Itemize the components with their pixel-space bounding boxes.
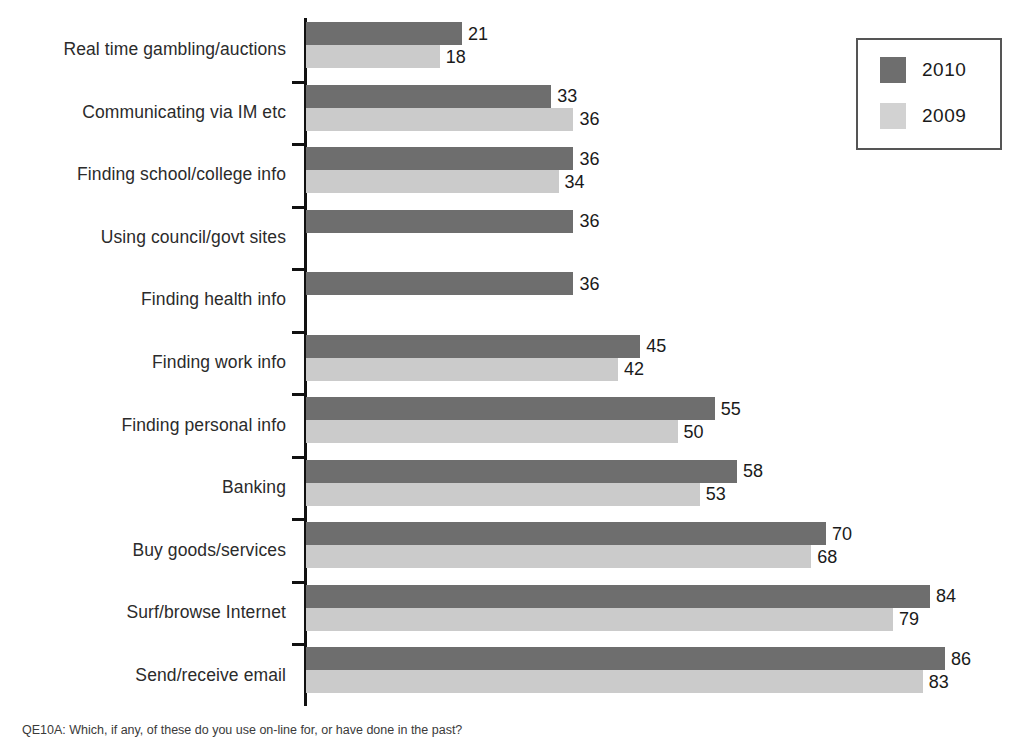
legend-swatch-2009: [880, 103, 906, 129]
chart-row: Finding work info4542: [0, 331, 1021, 394]
bar-value-label: 33: [551, 86, 577, 107]
category-label: Finding work info: [152, 351, 286, 372]
bar-fill: [306, 585, 930, 608]
bar-2010: 58: [306, 460, 737, 483]
bar-2009: 36: [306, 108, 573, 131]
bar-fill: [306, 272, 573, 295]
category-label: Finding health info: [141, 289, 286, 310]
bar-2010: 70: [306, 522, 826, 545]
bar-value-label: 83: [923, 671, 949, 692]
bar-2010: 86: [306, 647, 945, 670]
bar-value-label: 58: [737, 461, 763, 482]
category-label: Finding personal info: [121, 414, 286, 435]
bar-value-label: 53: [700, 484, 726, 505]
bar-2009: 53: [306, 483, 700, 506]
bar-chart: Real time gambling/auctions2118Communica…: [0, 0, 1021, 738]
chart-caption: QE10A: Which, if any, of these do you us…: [22, 723, 982, 738]
bar-fill: [306, 335, 640, 358]
bar-2010: 36: [306, 272, 573, 295]
bar-value-label: 68: [811, 546, 837, 567]
bar-value-label: 70: [826, 523, 852, 544]
category-label: Banking: [222, 477, 286, 498]
bar-value-label: 21: [462, 23, 488, 44]
bar-fill: [306, 670, 923, 693]
category-label: Finding school/college info: [77, 164, 286, 185]
legend-item-2009: 2009: [880, 102, 966, 130]
chart-row: Banking5853: [0, 456, 1021, 519]
bar-fill: [306, 397, 715, 420]
bar-fill: [306, 608, 893, 631]
category-label: Using council/govt sites: [101, 226, 286, 247]
bar-value-label: 18: [440, 46, 466, 67]
bar-fill: [306, 147, 573, 170]
bar-value-label: 86: [945, 648, 971, 669]
legend-item-2010: 2010: [880, 56, 966, 84]
category-label: Real time gambling/auctions: [63, 39, 286, 60]
bar-fill: [306, 647, 945, 670]
bar-value-label: 45: [640, 336, 666, 357]
bar-2010: 21: [306, 22, 462, 45]
bar-value-label: 36: [573, 211, 599, 232]
bar-fill: [306, 210, 573, 233]
bar-2010: 84: [306, 585, 930, 608]
chart-row: Send/receive email8683: [0, 643, 1021, 706]
bar-value-label: 42: [618, 359, 644, 380]
bar-2009: 50: [306, 420, 678, 443]
chart-row: Surf/browse Internet8479: [0, 581, 1021, 644]
bar-value-label: 84: [930, 586, 956, 607]
bar-fill: [306, 170, 559, 193]
bar-fill: [306, 420, 678, 443]
bar-fill: [306, 85, 551, 108]
bar-value-label: 50: [678, 421, 704, 442]
bar-value-label: 36: [573, 109, 599, 130]
bar-2009: 18: [306, 45, 440, 68]
bar-value-label: 36: [573, 273, 599, 294]
bar-fill: [306, 108, 573, 131]
bar-2010: 45: [306, 335, 640, 358]
chart-row: Finding personal info5550: [0, 393, 1021, 456]
bar-value-label: 34: [559, 171, 585, 192]
chart-row: Finding school/college info3634: [0, 143, 1021, 206]
category-label: Send/receive email: [135, 664, 286, 685]
bar-2010: 36: [306, 210, 573, 233]
bar-value-label: 36: [573, 148, 599, 169]
chart-row: Finding health info36: [0, 268, 1021, 331]
bar-fill: [306, 22, 462, 45]
category-label: Buy goods/services: [132, 539, 286, 560]
legend: 2010 2009: [856, 38, 1002, 150]
legend-label-2010: 2010: [922, 59, 966, 81]
legend-swatch-2010: [880, 57, 906, 83]
bar-fill: [306, 483, 700, 506]
bar-fill: [306, 358, 618, 381]
bar-2009: 34: [306, 170, 559, 193]
bar-2010: 36: [306, 147, 573, 170]
bar-2009: 68: [306, 545, 811, 568]
bar-2010: 55: [306, 397, 715, 420]
bar-fill: [306, 460, 737, 483]
bar-fill: [306, 522, 826, 545]
bar-value-label: 79: [893, 609, 919, 630]
legend-label-2009: 2009: [922, 105, 966, 127]
category-label: Surf/browse Internet: [126, 602, 286, 623]
chart-row: Using council/govt sites36: [0, 206, 1021, 269]
bar-2009: 42: [306, 358, 618, 381]
bar-2009: 83: [306, 670, 923, 693]
bar-fill: [306, 45, 440, 68]
bar-2009: 79: [306, 608, 893, 631]
bar-fill: [306, 545, 811, 568]
bar-value-label: 55: [715, 398, 741, 419]
category-label: Communicating via IM etc: [82, 101, 286, 122]
bar-2010: 33: [306, 85, 551, 108]
chart-row: Buy goods/services7068: [0, 518, 1021, 581]
